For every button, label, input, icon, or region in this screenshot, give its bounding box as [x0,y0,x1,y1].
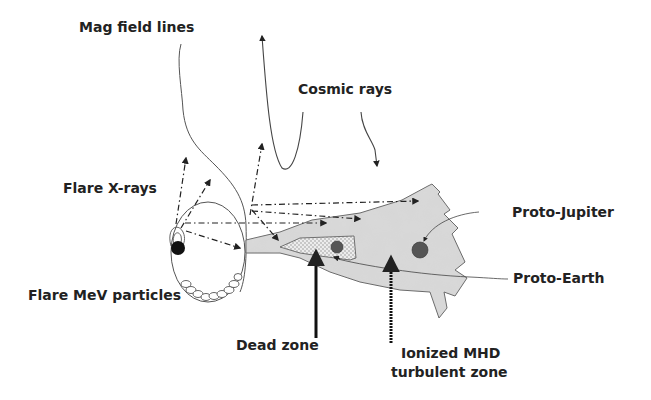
label-proto-jupiter: Proto-Jupiter [512,204,614,221]
proto-jupiter-planet [412,242,428,258]
label-flare-mev-particles: Flare MeV particles [28,287,181,304]
cosmic-ray-path-2 [361,112,377,166]
label-flare-xrays: Flare X-rays [63,180,157,197]
proto-earth-planet [331,241,343,253]
star [171,241,185,255]
label-mag-field-lines: Mag field lines [79,19,194,36]
label-proto-earth: Proto-Earth [513,270,604,287]
protoplanetary-disk-diagram [0,0,651,400]
label-turbulent-zone: turbulent zone [391,364,508,381]
label-ionized-mhd: Ionized MHD [401,345,500,362]
cosmic-ray-path-1 [262,36,303,169]
label-dead-zone: Dead zone [236,337,319,354]
label-cosmic-rays: Cosmic rays [298,81,392,98]
